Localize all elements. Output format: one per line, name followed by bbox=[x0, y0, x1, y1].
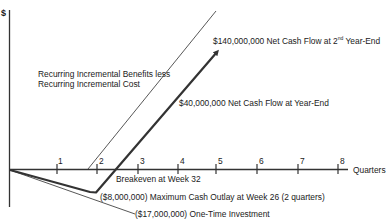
tick-label-2: 2 bbox=[99, 157, 104, 165]
tick-label-4: 4 bbox=[180, 157, 185, 165]
tick-label-6: 6 bbox=[259, 157, 264, 165]
tick-label-1: 1 bbox=[58, 157, 63, 165]
annotation-recurring-line1: Recurring Incremental Benefits less bbox=[38, 70, 170, 78]
annotation-max-outlay: ($8,000,000) Maximum Cash Outlay at Week… bbox=[100, 193, 325, 201]
annotation-net-2nd-year-prefix: $140,000,000 Net Cash Flow at 2 bbox=[213, 36, 338, 46]
tick-label-8: 8 bbox=[340, 157, 345, 165]
annotation-net-year-end: $40,000,000 Net Cash Flow at Year-End bbox=[179, 99, 329, 107]
annotation-net-2nd-year-sup: nd bbox=[338, 35, 344, 41]
annotation-investment: ($17,000,000) One-Time Investment bbox=[135, 210, 270, 218]
x-axis-label: Quarters bbox=[353, 166, 386, 174]
tick-label-7: 7 bbox=[300, 157, 305, 165]
y-axis-label: $ bbox=[1, 9, 6, 18]
annotation-net-2nd-year-suffix: Year-End bbox=[343, 36, 380, 46]
annotation-recurring-line2: Recurring Incremental Cost bbox=[38, 80, 140, 88]
annotation-net-2nd-year: $140,000,000 Net Cash Flow at 2nd Year-E… bbox=[213, 37, 380, 45]
breakeven-chart bbox=[0, 0, 388, 220]
annotation-breakeven: Breakeven at Week 32 bbox=[116, 175, 201, 183]
recurring-benefits-line bbox=[88, 11, 216, 169]
tick-label-5: 5 bbox=[218, 157, 223, 165]
tick-label-3: 3 bbox=[140, 157, 145, 165]
